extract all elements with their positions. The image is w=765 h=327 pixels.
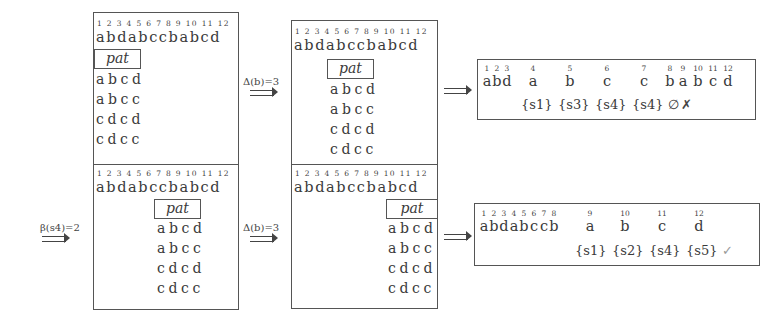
result-cell: 1a <box>482 64 492 89</box>
result-cell: 2b <box>489 209 499 234</box>
pat-label: pat <box>154 199 201 219</box>
pat-label: pat <box>386 199 438 219</box>
result-cell: 4a <box>527 64 539 89</box>
beta-label: β(s4)=2 <box>40 222 80 233</box>
double-arrow-icon <box>42 236 66 242</box>
result-cell: 5b <box>564 64 576 89</box>
implies-arrow-icon <box>444 88 468 94</box>
match-set: {s3} <box>558 97 589 112</box>
result-cell: 3d <box>502 64 512 89</box>
pattern-row: abcc <box>388 240 435 256</box>
panel-bottom-middle: 1 2 3 4 5 6 7 8 9 10 11 12 abdabccbabcd … <box>291 164 438 309</box>
result-cell: 6c <box>529 209 539 234</box>
check-mark-icon: ✓ <box>722 243 733 258</box>
index-row: 1 2 3 4 5 6 7 8 9 10 11 12 <box>97 19 230 28</box>
result-cell: 11c <box>706 64 720 89</box>
pattern-row: cdcd <box>330 121 378 137</box>
result-cell: 1a <box>479 209 489 234</box>
double-arrow-icon <box>250 90 274 96</box>
result-cell: 11c <box>655 209 669 234</box>
match-set: {s1} <box>521 97 552 112</box>
pat-label: pat <box>327 59 374 79</box>
result-cell: 9a <box>677 64 689 89</box>
double-arrow-icon <box>250 236 274 242</box>
result-cell: 2b <box>492 64 502 89</box>
match-set: {s4} <box>632 97 663 112</box>
delta-label-top: Δ(b)=3 <box>243 76 279 87</box>
pattern-row: cdcd <box>388 260 436 276</box>
text-string: abdabccbabcd <box>294 179 419 195</box>
panel-top-left: 1 2 3 4 5 6 7 8 9 10 11 12 abdabccbabcd … <box>93 12 239 165</box>
result-cell: 5b <box>519 209 529 234</box>
index-row: 1 2 3 4 5 6 7 8 9 10 11 12 <box>295 27 428 36</box>
pattern-row: abcd <box>330 81 379 97</box>
result-cell: 3d <box>499 209 509 234</box>
pattern-row: abcd <box>96 71 145 87</box>
index-row: 1 2 3 4 5 6 7 8 9 10 11 12 <box>97 169 230 178</box>
pat-label: pat <box>94 49 141 69</box>
empty-set-icon: ∅ <box>668 97 679 112</box>
match-set: {s4} <box>649 243 680 258</box>
result-cell: 7c <box>638 64 650 89</box>
result-cell: 8b <box>664 64 676 89</box>
result-cell: 10b <box>691 64 705 89</box>
result-box-top: 1a 2b 3d 4a 5b 6c 7c 8b 9a 10b 11c 12d {… <box>477 59 756 120</box>
pattern-row: cdcc <box>157 280 204 296</box>
result-cell: 12d <box>721 64 735 89</box>
text-string: abdabccbabcd <box>294 37 419 53</box>
result-cell: 8b <box>549 209 559 234</box>
pattern-row: abcc <box>96 91 143 107</box>
result-cell: 12d <box>692 209 706 234</box>
result-box-bottom: 1a 2b 3d 4a 5b 6c 7c 8b 9a 10b 11c 12d {… <box>474 203 760 266</box>
pattern-row: abcc <box>157 240 204 256</box>
result-cell: 10b <box>618 209 632 234</box>
index-row: 1 2 3 4 5 6 7 8 9 10 11 12 <box>295 169 428 178</box>
match-set: {s5} <box>686 243 717 258</box>
pattern-row: cdcd <box>157 260 205 276</box>
match-set: {s1} <box>575 243 606 258</box>
result-cell: 7c <box>539 209 549 234</box>
match-set: {s4} <box>595 97 626 112</box>
pattern-row: cdcc <box>388 280 435 296</box>
panel-bottom-left: 1 2 3 4 5 6 7 8 9 10 11 12 abdabccbabcd … <box>93 164 239 310</box>
implies-arrow-icon <box>444 234 468 240</box>
cross-mark-icon: ✗ <box>681 97 692 112</box>
pattern-row: cdcc <box>330 141 377 157</box>
result-cell: 9a <box>584 209 596 234</box>
text-string: abdabccbabcd <box>96 179 221 195</box>
match-set: {s2} <box>612 243 643 258</box>
pattern-row: cdcc <box>96 131 143 147</box>
delta-label-bottom: Δ(b)=3 <box>243 222 279 233</box>
panel-top-middle: 1 2 3 4 5 6 7 8 9 10 11 12 abdabccbabcd … <box>291 20 438 165</box>
pattern-row: abcd <box>157 220 206 236</box>
result-cell: 6c <box>601 64 613 89</box>
pattern-row: cdcd <box>96 111 144 127</box>
result-cell: 4a <box>509 209 519 234</box>
pattern-row: abcc <box>330 101 377 117</box>
pattern-row: abcd <box>388 220 437 236</box>
text-string: abdabccbabcd <box>96 29 221 45</box>
